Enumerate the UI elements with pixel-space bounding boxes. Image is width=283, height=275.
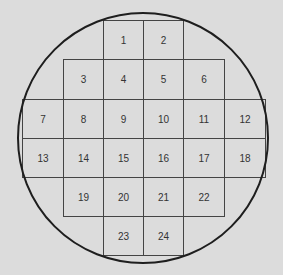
die-cell-5: 5 [144,60,184,100]
die-cell-10: 10 [144,100,184,139]
die-cell-14: 14 [64,139,104,178]
die-cell-label: 14 [78,153,90,164]
die-cell-11: 11 [184,100,225,139]
die-cell-21: 21 [144,178,184,217]
die-cell-label: 13 [37,153,49,164]
die-cell-2: 2 [144,21,184,60]
die-cell-label: 3 [81,74,87,85]
die-cell-7: 7 [23,100,64,139]
die-cell-15: 15 [104,139,144,178]
die-cell-label: 6 [201,74,207,85]
die-cell-label: 11 [199,114,210,125]
die-cell-label: 12 [239,114,251,125]
die-cell-16: 16 [144,139,184,178]
die-cell-20: 20 [104,178,144,217]
die-cell-label: 17 [198,153,210,164]
die-grid: 123456789101112131415161718192021222324 [23,21,266,256]
die-cell-12: 12 [225,100,266,139]
die-cell-4: 4 [104,60,144,100]
die-cell-label: 8 [81,114,87,125]
die-cell-label: 15 [118,153,130,164]
die-cell-label: 5 [161,74,167,85]
die-cell-6: 6 [184,60,225,100]
die-cell-label: 24 [158,231,170,242]
die-cell-label: 9 [121,114,127,125]
die-cell-label: 20 [118,192,130,203]
die-cell-label: 18 [239,153,251,164]
die-cell-label: 16 [158,153,170,164]
die-cell-23: 23 [104,217,144,256]
die-cell-label: 1 [121,35,127,46]
wafer-diagram: 123456789101112131415161718192021222324 [0,0,283,275]
die-cell-label: 23 [118,231,130,242]
die-cell-1: 1 [104,21,144,60]
die-cell-9: 9 [104,100,144,139]
die-cell-label: 19 [78,192,90,203]
die-cell-label: 7 [40,114,46,125]
die-cell-19: 19 [64,178,104,217]
die-cell-label: 4 [121,74,127,85]
die-cell-8: 8 [64,100,104,139]
die-cell-24: 24 [144,217,184,256]
die-cell-label: 10 [158,114,170,125]
die-cell-3: 3 [64,60,104,100]
die-cell-label: 2 [161,35,167,46]
die-cell-22: 22 [184,178,225,217]
die-cell-13: 13 [23,139,64,178]
die-cell-label: 22 [198,192,210,203]
die-cell-label: 21 [158,192,170,203]
die-cell-17: 17 [184,139,225,178]
die-cell-18: 18 [225,139,266,178]
